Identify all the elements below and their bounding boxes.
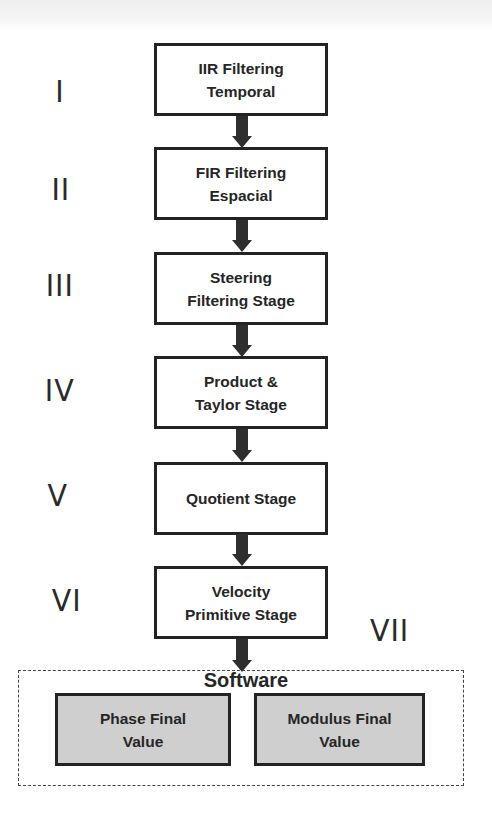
arrow-down-icon [232,450,252,462]
stage-label: Quotient Stage [186,487,296,510]
stage-label: IIR Filtering Temporal [198,57,283,103]
output-label: Modulus Final Value [287,707,391,753]
stage-box-velocity-primitive: Velocity Primitive Stage [154,566,328,639]
arrow-shaft [236,429,248,452]
stage-numeral-4: IV [45,376,75,406]
arrow-shaft [236,325,248,347]
stage-box-fir-filtering: FIR Filtering Espacial [154,147,328,220]
stage-label: Velocity Primitive Stage [185,580,297,626]
flow-arrow-6-software [232,639,252,672]
arrow-shaft [236,639,248,662]
scan-top-strip [0,0,492,30]
flow-arrow-3-4 [232,325,252,357]
stage-box-steering-filtering: Steering Filtering Stage [154,252,328,325]
flow-arrow-2-3 [232,220,252,252]
software-title: Software [0,669,492,692]
arrow-down-icon [232,240,252,252]
output-box-modulus-final-value: Modulus Final Value [254,693,425,766]
stage-numeral-6: VI [52,586,82,616]
arrow-down-icon [232,554,252,566]
stage-numeral-2: II [51,175,70,205]
flow-arrow-4-5 [232,429,252,462]
stage-numeral-1: I [55,77,64,107]
arrow-shaft [236,220,248,242]
stage-numeral-5: V [48,481,68,511]
output-label: Phase Final Value [100,707,186,753]
stage-box-product-taylor: Product & Taylor Stage [154,356,328,429]
arrow-shaft [236,116,248,138]
stage-label: FIR Filtering Espacial [196,161,286,207]
output-box-phase-final-value: Phase Final Value [55,693,231,766]
stage-box-quotient: Quotient Stage [154,462,328,535]
arrow-shaft [236,534,248,556]
stage-label: Product & Taylor Stage [195,370,287,416]
flow-arrow-5-6 [232,534,252,566]
stage-numeral-7: VII [370,616,409,646]
stage-label: Steering Filtering Stage [187,266,295,312]
stage-box-iir-filtering: IIR Filtering Temporal [154,43,328,116]
stage-numeral-3: III [46,271,74,301]
flow-arrow-1-2 [232,116,252,148]
